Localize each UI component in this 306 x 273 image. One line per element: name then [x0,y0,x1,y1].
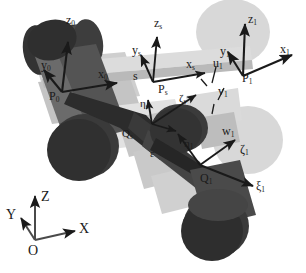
label-eta-1: η1 [184,138,194,149]
label-Qs: Qs [122,128,133,139]
label-w1: w1 [222,125,234,137]
axis-Y-arrow [21,218,35,240]
label-u1: u1 [213,57,223,69]
label-Ps: Ps [158,83,168,95]
label-Q1: Q1 [200,172,212,184]
label-epsilon: ε [150,148,155,159]
label-y0: y0 [41,59,51,71]
label-s-length: s [133,70,138,82]
label-zeta-s: ζs [179,93,186,104]
axis-X-arrow [35,231,75,240]
label-P1: P1 [242,72,252,84]
label-P0: P0 [49,90,59,102]
label-O: O [28,244,38,258]
label-Y: Y [6,208,16,222]
figure-canvas: z0 y0 x0 P0 s zs ys xs Ps z1 y1 x1 P1 u1… [0,0,306,273]
label-X: X [79,222,89,236]
label-zs: zs [154,17,162,29]
bottom-right-roller [181,160,256,261]
label-x0: x0 [98,68,108,80]
label-zeta-1: ζ1 [240,143,249,155]
label-eta-s: ηs [140,98,149,109]
label-z1: z1 [248,13,257,25]
label-v1: v1 [218,85,228,97]
label-z0: z0 [66,14,75,26]
label-y1: y1 [220,45,230,57]
diagram-svg [0,0,306,273]
label-x1: x1 [280,43,290,55]
label-Z: Z [41,190,50,204]
label-xi-1: ξ1 [256,180,265,192]
label-ys: ys [132,44,141,56]
label-xs: xs [186,58,195,70]
